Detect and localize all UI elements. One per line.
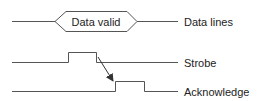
strobe-label: Strobe [184, 57, 216, 69]
strobe-signal: Strobe [12, 53, 216, 69]
handshake-arrow [98, 57, 113, 81]
data-lines-signal: Data valid Data lines [12, 12, 233, 32]
acknowledge-label: Acknowledge [184, 86, 249, 98]
data-valid-label: Data valid [72, 16, 121, 28]
acknowledge-signal: Acknowledge [12, 82, 249, 98]
handshake-timing-diagram: Data valid Data lines Strobe Acknowledge [0, 0, 258, 101]
data-lines-label: Data lines [184, 16, 233, 28]
acknowledge-waveform [12, 82, 178, 92]
strobe-waveform [12, 53, 178, 63]
